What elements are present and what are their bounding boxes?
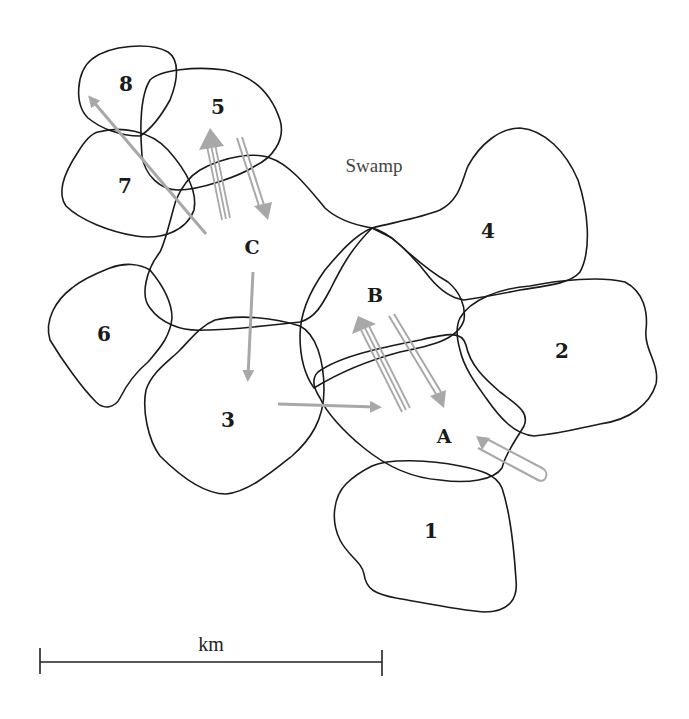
region-label-c: C	[244, 236, 259, 258]
movement-arrows	[92, 100, 546, 481]
region-label-3: 3	[221, 408, 235, 432]
region-label-b: B	[367, 284, 383, 306]
region-label-4: 4	[481, 219, 495, 243]
region-label-6: 6	[97, 322, 111, 346]
region-5-outline	[141, 68, 281, 190]
swamp-label: Swamp	[346, 155, 403, 177]
arrow-c-to-5	[199, 128, 230, 220]
arrow-3-to-a	[278, 404, 376, 407]
region-label-5: 5	[211, 95, 225, 119]
region-label-8: 8	[119, 72, 133, 96]
region-label-1: 1	[424, 519, 438, 543]
arrow-5-to-c	[237, 137, 272, 220]
scale-bar-label: km	[198, 633, 224, 656]
region-label-a: A	[437, 425, 452, 447]
arrow-c-to-8	[92, 100, 206, 234]
region-label-7: 7	[118, 174, 132, 198]
arrow-c-to-3	[248, 272, 253, 376]
territory-map	[0, 0, 689, 719]
region-label-2: 2	[555, 339, 569, 363]
region-4-outline	[372, 128, 587, 300]
